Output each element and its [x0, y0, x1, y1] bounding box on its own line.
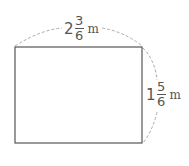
width-arc-left: [15, 28, 62, 46]
height-whole: 1: [146, 86, 156, 104]
width-arc-right: [102, 28, 142, 46]
height-arc-bottom: [143, 112, 157, 143]
width-numerator: 3: [75, 15, 83, 27]
width-unit: m: [88, 22, 99, 36]
height-numerator: 5: [157, 81, 165, 93]
height-arc-top: [143, 48, 157, 80]
height-denominator: 6: [157, 96, 165, 108]
rectangle: [15, 47, 142, 143]
width-whole: 2: [64, 20, 74, 38]
height-fraction: 5 6: [157, 81, 166, 108]
width-denominator: 6: [75, 30, 83, 42]
height-unit: m: [170, 88, 181, 102]
width-fraction: 3 6: [75, 15, 84, 42]
width-label: 2 3 6 m: [64, 15, 99, 42]
height-label: 1 5 6 m: [146, 81, 181, 108]
